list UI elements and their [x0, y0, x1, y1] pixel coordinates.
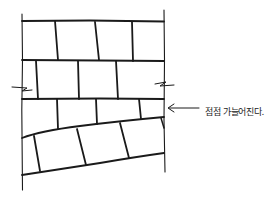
wall-right-edge	[164, 10, 165, 172]
course-line-3	[22, 99, 164, 100]
head-joint	[96, 99, 97, 124]
head-joint	[34, 136, 40, 171]
course-line-2	[22, 60, 164, 61]
head-joint	[116, 61, 118, 99]
head-joint	[95, 22, 99, 60]
head-joint	[132, 22, 133, 61]
head-joint	[120, 123, 129, 158]
head-joint	[55, 21, 58, 60]
course-line-5	[22, 153, 164, 175]
head-joint	[57, 99, 58, 129]
course-line-1	[22, 21, 164, 22]
head-joint	[78, 61, 79, 99]
head-joint	[77, 129, 86, 165]
head-joint	[139, 99, 141, 119]
brick-wall-diagram	[0, 0, 277, 203]
head-joint	[36, 61, 38, 99]
course-line-4	[22, 117, 164, 138]
annotation-text: 점점 가늘어진다.	[205, 105, 264, 118]
wall-left-edge	[22, 14, 23, 190]
